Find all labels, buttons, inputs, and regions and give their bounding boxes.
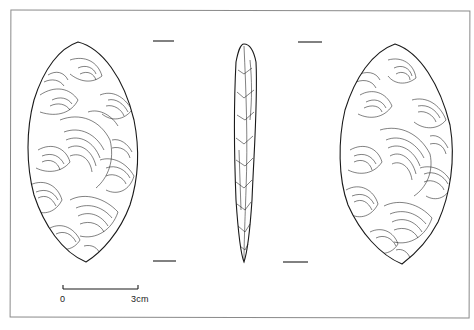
lithic-illustration [0,0,474,330]
orientation-marks [153,41,322,262]
scale-start-label: 0 [60,294,65,304]
artifact-face-a [28,42,137,262]
scale-bar [63,285,138,289]
artifact-face-b [340,44,452,264]
artifact-profile [235,44,257,262]
scale-end-label: 3cm [131,294,149,304]
